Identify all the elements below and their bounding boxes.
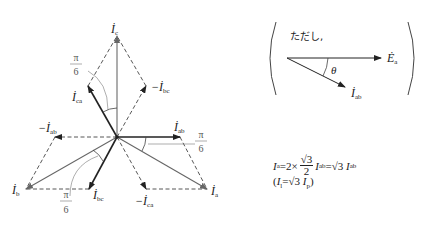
svg-text:π: π [198,129,203,140]
fraction: √3 2 [300,154,314,177]
phasor-diagram-canvas: İc İca −İbc −İab İab İb İbc −İca İa π 6 … [0,0,427,228]
svg-text:6: 6 [199,143,204,154]
formula-block: Ia =2× √3 2 Iab =√3 Iab (Il=√3 Ip) [273,154,423,190]
origin-point [115,135,119,139]
formula-line-2: (Il=√3 Ip) [273,175,423,190]
angle-label-upper: π 6 [70,52,82,77]
angle-label-right: π 6 [195,129,207,154]
label-ea: Ėa [386,51,398,66]
arc-lower-left [93,150,103,161]
label-ibc: İbc [92,188,104,203]
arc-right [142,137,146,151]
label-neg-iab: −İab [38,121,57,136]
inset-definition: ただし, θ Ėa İab [270,22,414,101]
left-paren [270,22,276,95]
theta-arc [323,58,328,76]
label-neg-ica: −İca [135,194,154,209]
vector-ica [88,86,117,137]
vector-neg-ibc [117,86,146,137]
line-current-vectors [26,36,207,189]
label-ic: İc [110,22,118,37]
theta-label: θ [331,64,337,76]
svg-text:6: 6 [74,66,79,77]
svg-text:π: π [73,52,78,63]
arc-upper [103,108,117,112]
label-ica: İca [71,90,83,105]
svg-text:π: π [63,189,68,200]
dashed-negibc-to-ic [117,36,146,86]
phase-current-vectors [88,86,180,189]
angle-arcs [93,108,146,161]
label-ia: İa [210,184,219,199]
formula-line-1: Ia =2× √3 2 Iab =√3 Iab [273,154,423,177]
label-ib: İb [11,183,20,198]
right-paren [408,22,414,95]
dashed-ica-to-ic [88,36,117,86]
label-iab: İab [173,120,185,135]
label-neg-ibc: −İbc [151,80,170,95]
note-text: ただし, [290,31,323,42]
label-iab-inset: İab [350,86,362,101]
svg-text:6: 6 [64,204,69,215]
